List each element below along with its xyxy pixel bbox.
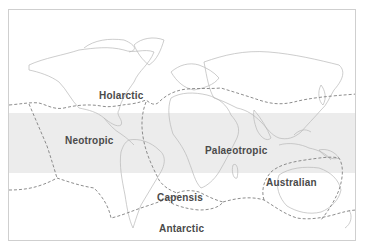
region-label-capensis: Capensis [157, 192, 203, 203]
region-label-neotropic: Neotropic [65, 135, 113, 146]
region-label-australian: Australian [266, 177, 317, 188]
region-label-holarctic: Holarctic [99, 90, 144, 101]
region-label-palaeotropic: Palaeotropic [205, 145, 267, 156]
world-map [9, 10, 356, 241]
map-frame: Holarctic Neotropic Palaeotropic Austral… [8, 9, 356, 241]
region-label-antarctic: Antarctic [159, 223, 204, 234]
